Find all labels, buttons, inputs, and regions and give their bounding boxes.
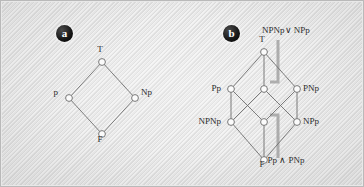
lattice-edge (231, 52, 264, 89)
node-label-b-ll: NPNp (0, 116, 221, 126)
lattice-node-a-top[interactable] (99, 59, 106, 66)
annot-meet-label: Pp ∧ PNp (246, 155, 326, 165)
lattice-node-b-mc[interactable] (261, 86, 268, 93)
figure-container: TpNpFaTPpPNpNPNpNPpFNPNp∨ NPpPp ∧ PNpb (0, 0, 364, 187)
lattice-node-b-lr[interactable] (294, 119, 301, 126)
annot-join-pointer (270, 40, 278, 82)
lattice-nodes-layer (66, 49, 301, 164)
lattice-node-b-ll[interactable] (228, 119, 235, 126)
node-label-b-mr: PNp (303, 83, 319, 93)
annot-join-label: NPNp∨ NPp (246, 25, 326, 35)
node-label-a-bottom: F (70, 134, 130, 144)
node-label-a-top: T (70, 44, 130, 54)
lattice-node-b-ml[interactable] (228, 86, 235, 93)
lattice-node-b-top[interactable] (261, 49, 268, 56)
node-label-b-top: T (232, 34, 292, 44)
node-label-b-lr: NPp (303, 116, 319, 126)
lattice-node-b-mr[interactable] (294, 86, 301, 93)
panel-badge-b: b (223, 25, 240, 42)
lattice-edge (264, 52, 297, 89)
lattice-node-a-left[interactable] (66, 95, 73, 102)
lattice-node-a-right[interactable] (132, 95, 139, 102)
lattice-node-b-lc[interactable] (261, 119, 268, 126)
node-label-b-ml: Pp (0, 83, 221, 93)
panel-badge-a: a (56, 25, 73, 42)
